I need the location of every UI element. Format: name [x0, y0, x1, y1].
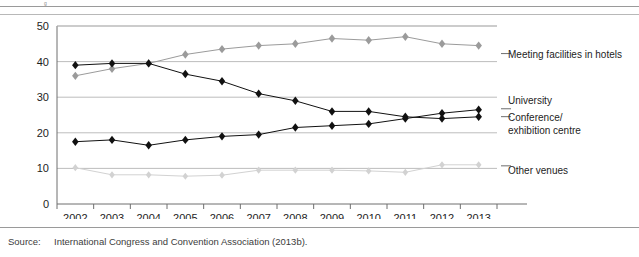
x-tick-label-2009: 2009: [320, 212, 344, 219]
data-point-2003: [109, 136, 116, 144]
x-tick-label-2011: 2011: [394, 212, 418, 219]
data-point-2002: [72, 72, 79, 80]
data-point-2007: [256, 167, 262, 174]
data-point-2010: [365, 36, 372, 44]
data-point-2008: [292, 40, 299, 48]
data-point-2004: [146, 171, 152, 178]
data-point-2013: [476, 161, 482, 168]
series-other-venues: [73, 161, 482, 180]
y-tick-label-30: 30: [37, 91, 49, 103]
data-point-2013: [475, 41, 482, 49]
data-point-2009: [329, 107, 336, 115]
data-point-2010: [365, 107, 372, 115]
legend-label-other: Other venues: [508, 165, 568, 178]
series-meeting-facilities-in-hotels: [72, 32, 482, 80]
legend-label-hotels: Meeting facilities in hotels: [508, 49, 622, 62]
data-point-2012: [439, 161, 445, 168]
data-point-2003: [109, 171, 115, 178]
x-tick-label-2006: 2006: [210, 212, 234, 219]
data-point-2011: [403, 169, 409, 176]
series-university: [72, 59, 482, 123]
data-point-2009: [329, 121, 336, 129]
data-point-2003: [109, 59, 116, 67]
x-tick-label-2003: 2003: [100, 212, 124, 219]
x-tick-label-2005: 2005: [173, 212, 197, 219]
data-point-2006: [219, 77, 226, 85]
data-point-2007: [255, 41, 262, 49]
data-point-2004: [145, 59, 152, 67]
data-point-2004: [145, 141, 152, 149]
data-point-2005: [183, 173, 189, 180]
y-tick-label-0: 0: [43, 198, 49, 210]
legend-label-conference: Conference/ exhibition centre: [508, 112, 581, 137]
series-line: [75, 63, 478, 118]
data-point-2007: [255, 130, 262, 138]
data-point-2005: [182, 70, 189, 78]
x-tick-label-2008: 2008: [283, 212, 307, 219]
data-point-2010: [365, 120, 372, 128]
x-tick-label-2013: 2013: [466, 212, 490, 219]
data-point-2006: [219, 172, 225, 179]
series-line: [75, 165, 478, 176]
y-tick-label-10: 10: [37, 162, 49, 174]
data-point-2008: [293, 167, 299, 174]
legend-label-conference-line2: exhibition centre: [508, 125, 581, 136]
x-tick-label-2002: 2002: [63, 212, 87, 219]
source-citation: International Congress and Convention As…: [54, 236, 308, 247]
y-tick-label-50: 50: [37, 20, 49, 32]
x-tick-label-2004: 2004: [136, 212, 160, 219]
data-point-2013: [475, 105, 482, 113]
data-point-2007: [255, 89, 262, 97]
x-tick-label-2007: 2007: [246, 212, 270, 219]
data-point-2002: [72, 61, 79, 69]
data-point-2012: [439, 109, 446, 117]
data-point-2008: [292, 123, 299, 131]
data-point-2005: [182, 136, 189, 144]
figure-caption-stub: g: [44, 0, 47, 6]
data-point-2008: [292, 97, 299, 105]
y-tick-label-40: 40: [37, 56, 49, 68]
legend-label-conference-line1: Conference/: [508, 112, 562, 123]
data-point-2012: [439, 40, 446, 48]
x-tick-label-2012: 2012: [430, 212, 454, 219]
data-point-2006: [219, 45, 226, 53]
data-point-2002: [73, 164, 79, 171]
top-divider-rule: [0, 6, 639, 7]
data-point-2009: [329, 167, 335, 174]
data-point-2006: [219, 132, 226, 140]
source-note: Source:International Congress and Conven…: [8, 236, 308, 247]
data-point-2005: [182, 50, 189, 58]
y-tick-label-20: 20: [37, 127, 49, 139]
data-point-2009: [329, 34, 336, 42]
series-line: [75, 37, 478, 76]
source-divider-rule: [0, 227, 639, 228]
x-tick-label-2010: 2010: [356, 212, 380, 219]
data-point-2011: [402, 32, 409, 40]
series-line: [75, 110, 478, 146]
series-conference-exhibition-centre: [72, 105, 482, 149]
legend-label-university: University: [508, 95, 552, 108]
data-point-2002: [72, 138, 79, 146]
source-label: Source:: [8, 236, 54, 247]
